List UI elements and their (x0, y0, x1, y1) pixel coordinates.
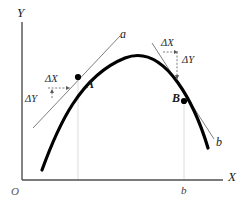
delta-y-arrowhead-a (50, 89, 54, 93)
point-marker-a (75, 74, 81, 80)
origin-label: O (11, 186, 19, 197)
figure-container: Y X O b A B a b ΔX ΔY ΔX ΔY (0, 0, 250, 207)
delta-x-label-b: ΔX (161, 38, 174, 49)
tangent-label-b: b (216, 136, 222, 148)
x-tick-label-b: b (181, 185, 187, 196)
x-axis-label: X (228, 170, 236, 183)
tangent-label-a: a (120, 28, 126, 40)
delta-y-label-a: ΔY (25, 94, 37, 105)
y-axis-label: Y (17, 6, 24, 19)
curve-path (42, 56, 208, 170)
delta-x-label-a: ΔX (45, 74, 58, 85)
point-label-a: A (86, 78, 94, 90)
point-label-b: B (172, 92, 180, 104)
delta-y-label-b: ΔY (182, 55, 194, 66)
point-marker-b (181, 98, 187, 104)
